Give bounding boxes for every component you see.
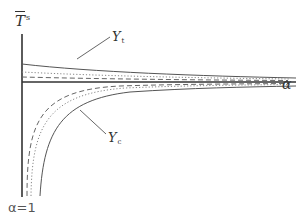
y-axis-label-main: T	[15, 12, 25, 30]
curve-label-lower-main: Y	[108, 130, 117, 145]
curve-label-upper-main: Y	[112, 29, 121, 44]
diagram-canvas	[0, 0, 306, 221]
curve-label-upper-subscript: t	[122, 37, 125, 45]
origin-label: α=1	[8, 201, 36, 214]
curve-lower-solid	[40, 86, 296, 196]
x-axis-label: α	[282, 77, 291, 91]
curve-label-upper: Yt	[112, 30, 124, 45]
curve-upper-dashed	[22, 77, 288, 81]
leader-line-lower	[80, 110, 106, 134]
y-axis-label: Ts	[15, 14, 30, 29]
leader-line-upper	[77, 37, 110, 59]
curve-label-lower-subscript: c	[118, 138, 122, 146]
curve-lower-dotted	[31, 85, 290, 197]
curve-label-lower: Yc	[108, 131, 122, 146]
y-axis-label-superscript: s	[26, 13, 30, 22]
curve-lower-dashed	[27, 84, 288, 197]
curve-upper-solid	[22, 64, 296, 78]
